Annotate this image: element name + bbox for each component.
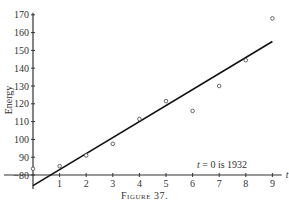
annotation: t = 0 is 1932 xyxy=(197,159,247,170)
y-tick-label: 170 xyxy=(14,9,29,20)
y-tick-label: 100 xyxy=(14,134,29,145)
x-tick-label: 3 xyxy=(110,178,115,189)
x-tick-label: 6 xyxy=(190,178,195,189)
x-tick-label: 2 xyxy=(84,178,89,189)
y-axis-label: Energy xyxy=(3,86,14,115)
data-point xyxy=(31,167,35,171)
data-point xyxy=(138,117,142,121)
data-point xyxy=(58,164,62,168)
y-tick-label: 150 xyxy=(14,45,29,56)
y-tick-label: 90 xyxy=(19,152,29,163)
x-tick-label: 8 xyxy=(243,178,248,189)
x-tick-label: 1 xyxy=(57,178,62,189)
caption-label: Figure xyxy=(121,190,151,201)
x-tick-label: 5 xyxy=(164,178,169,189)
data-point xyxy=(191,109,195,113)
chart: −8090100110120130140150160170 123456789 … xyxy=(0,0,289,190)
x-tick-label: 7 xyxy=(217,178,222,189)
x-axis-label: t xyxy=(286,169,289,180)
y-tick-label: 160 xyxy=(14,27,29,38)
x-tick-label: 9 xyxy=(270,178,275,189)
data-point xyxy=(84,154,88,158)
x-axis: 123456789 xyxy=(4,173,282,189)
y-tick-label: 120 xyxy=(14,98,29,109)
data-point xyxy=(164,99,168,103)
y-tick-label: 130 xyxy=(14,81,29,92)
y-tick-label: 110 xyxy=(14,116,29,127)
figure-caption: Figure 37. xyxy=(0,190,289,201)
data-point xyxy=(217,84,221,88)
caption-number: 37. xyxy=(154,190,168,201)
data-point xyxy=(271,17,275,21)
data-points xyxy=(31,17,274,171)
y-tick-label: 140 xyxy=(14,63,29,74)
y-axis: −8090100110120130140150160170 xyxy=(13,9,35,189)
data-point xyxy=(111,142,115,146)
axis-labels: Energytt = 0 is 1932 xyxy=(3,86,289,180)
data-point xyxy=(244,58,248,62)
x-tick-label: 4 xyxy=(137,178,142,189)
